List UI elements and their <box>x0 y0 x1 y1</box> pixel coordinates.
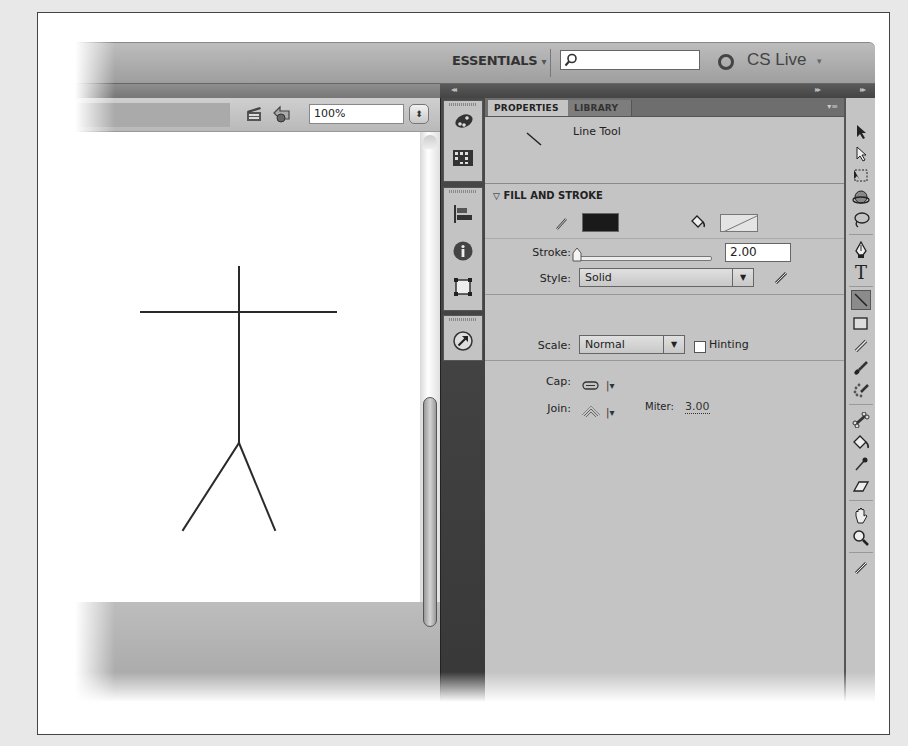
stroke-style-value: Solid <box>585 271 612 284</box>
3d-rotation-tool-icon[interactable] <box>851 188 871 208</box>
info-icon[interactable] <box>452 240 474 266</box>
edit-symbols-icon[interactable] <box>272 105 292 127</box>
edit-bar: 100% ⬍ <box>75 98 440 132</box>
chevron-down-icon: ▾ <box>817 56 822 66</box>
pencil-tool-icon[interactable] <box>851 336 871 356</box>
scale-label: Scale: <box>501 339 571 352</box>
flash-app-window: ESSENTIALS ▾ CS Live ▾ ◂◂ ▸▸ ▸▸ <box>75 42 875 702</box>
divider <box>485 183 844 184</box>
divider <box>849 404 873 405</box>
cs-live-menu[interactable]: CS Live <box>747 50 807 70</box>
stick-figure-right-leg[interactable] <box>239 443 275 530</box>
expand-panels-icon[interactable]: ▸▸ <box>815 85 819 94</box>
stroke-style-select[interactable]: Solid ▼ <box>579 268 754 287</box>
chevron-down-icon: |▾ <box>606 407 614 418</box>
line-tool-icon[interactable] <box>851 290 871 310</box>
motion-presets-icon[interactable] <box>452 330 474 356</box>
zoom-stepper[interactable]: ⬍ <box>409 104 429 124</box>
stroke-color-swatch[interactable] <box>582 213 619 232</box>
cap-select[interactable]: |▾ <box>581 374 614 393</box>
stroke-slider-track[interactable] <box>575 256 712 261</box>
chevron-down-icon: ▾ <box>541 56 546 67</box>
eyedropper-tool-icon[interactable] <box>851 454 871 474</box>
divider <box>485 294 844 295</box>
fill-and-stroke-section-toggle[interactable]: ▽ FILL AND STROKE <box>493 190 603 201</box>
stroke-width-input[interactable]: 2.00 <box>725 243 791 262</box>
transform-icon[interactable] <box>452 276 474 302</box>
fill-color-bucket-icon <box>690 215 706 229</box>
search-input[interactable] <box>560 50 700 70</box>
current-tool-name: Line Tool <box>573 125 621 138</box>
divider <box>550 49 551 77</box>
stroke-color-pencil-icon <box>555 217 569 231</box>
cap-label: Cap: <box>501 375 571 388</box>
stage-canvas[interactable] <box>75 132 420 602</box>
vertical-scrollbar[interactable] <box>420 132 440 602</box>
document-tab-bar <box>75 84 440 98</box>
scrollbar-track-cap <box>423 135 437 149</box>
scale-select[interactable]: Normal ▼ <box>579 335 685 354</box>
tab-library[interactable]: LIBRARY <box>568 100 632 116</box>
stroke-label: Stroke: <box>501 246 571 259</box>
drag-grip[interactable] <box>449 103 477 106</box>
divider <box>849 286 873 287</box>
zoom-level-field[interactable]: 100% <box>309 104 404 124</box>
color-icon[interactable] <box>452 111 474 135</box>
cs-live-status-icon <box>718 54 734 70</box>
subselection-tool-icon[interactable] <box>851 144 871 164</box>
panel-tabs: PROPERTIES LIBRARY ▾≡ <box>485 98 844 117</box>
free-transform-tool-icon[interactable] <box>851 166 871 186</box>
collapse-panels-icon[interactable]: ◂◂ <box>451 85 455 94</box>
stick-figure-drawing <box>75 132 420 602</box>
text-tool-icon[interactable]: T <box>851 262 871 282</box>
section-title: FILL AND STROKE <box>503 190 602 201</box>
miter-label: Miter: <box>645 401 674 412</box>
panel-icon-dock <box>440 98 485 702</box>
scrollbar-thumb[interactable] <box>423 397 437 627</box>
hand-tool-icon[interactable] <box>851 506 871 526</box>
drag-grip[interactable] <box>449 318 477 321</box>
paint-bucket-tool-icon[interactable] <box>851 432 871 452</box>
application-bar: ESSENTIALS ▾ CS Live ▾ <box>75 42 875 84</box>
stroke-slider-thumb[interactable] <box>571 247 583 263</box>
chevron-down-icon: |▾ <box>606 380 614 391</box>
tools-panel: T <box>845 98 875 702</box>
miter-value[interactable]: 3.00 <box>685 400 710 414</box>
brush-tool-icon[interactable] <box>851 358 871 378</box>
edit-stroke-style-icon[interactable] <box>773 270 789 286</box>
lasso-tool-icon[interactable] <box>851 210 871 230</box>
deco-tool-icon[interactable] <box>851 380 871 400</box>
zoom-tool-icon[interactable] <box>851 528 871 548</box>
align-icon[interactable] <box>452 204 474 228</box>
panel-menu-icon[interactable]: ▾≡ <box>827 102 838 111</box>
bone-tool-icon[interactable] <box>851 410 871 430</box>
pasteboard <box>75 602 440 702</box>
divider <box>849 552 873 553</box>
swatches-icon[interactable] <box>452 149 474 171</box>
tab-properties[interactable]: PROPERTIES <box>488 100 568 116</box>
properties-panel: PROPERTIES LIBRARY ▾≡ Line Tool ▽ FILL A… <box>485 98 845 702</box>
edit-scene-icon[interactable] <box>245 105 263 127</box>
drag-grip[interactable] <box>449 190 477 193</box>
expand-tools-icon[interactable]: ▸▸ <box>860 85 864 94</box>
divider <box>485 360 844 361</box>
line-tool-icon <box>525 131 545 151</box>
eraser-tool-icon[interactable] <box>851 476 871 496</box>
stick-figure-left-leg[interactable] <box>183 443 239 530</box>
join-label: Join: <box>501 402 571 415</box>
stroke-color-tool-icon[interactable] <box>851 558 871 578</box>
hinting-label: Hinting <box>709 338 749 351</box>
search-icon <box>564 53 578 67</box>
join-select[interactable]: |▾ <box>581 401 614 420</box>
pen-tool-icon[interactable] <box>851 240 871 260</box>
hinting-checkbox[interactable] <box>694 341 706 353</box>
selection-tool-icon[interactable] <box>851 122 871 142</box>
style-label: Style: <box>501 272 571 285</box>
rectangle-tool-icon[interactable] <box>851 314 871 334</box>
dock-group <box>443 100 483 182</box>
workspace-switcher[interactable]: ESSENTIALS ▾ <box>452 53 546 68</box>
dock-group <box>443 315 483 361</box>
fill-color-swatch[interactable] <box>720 214 758 232</box>
scale-value: Normal <box>585 338 625 351</box>
divider <box>485 238 844 239</box>
